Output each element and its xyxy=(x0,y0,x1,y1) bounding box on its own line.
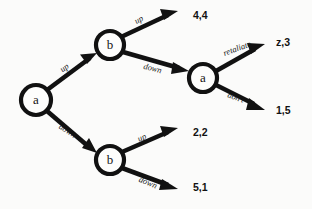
node-lower-b[interactable]: b xyxy=(96,146,124,174)
payoff-label-5-1: 5,1 xyxy=(193,181,208,193)
edge-upper-b-down-arrowhead xyxy=(171,62,189,74)
edge-lower-b-up xyxy=(122,126,178,152)
edge-label-lower-b-down: down xyxy=(138,174,159,190)
node-group: a b b a xyxy=(21,31,217,174)
node-root-a-label: a xyxy=(33,92,39,107)
edge-upper-b-up xyxy=(121,9,178,37)
payoff-label-4-4: 4,4 xyxy=(193,9,208,21)
node-upper-b[interactable]: b xyxy=(96,31,124,59)
node-second-a[interactable]: a xyxy=(189,64,217,92)
game-tree-svg: up down up down retaliate don't up down … xyxy=(0,0,312,209)
edge-root-up-line xyxy=(47,58,90,90)
edge-lower-b-down-arrowhead xyxy=(159,179,178,190)
game-tree-diagram: up down up down retaliate don't up down … xyxy=(0,0,312,209)
node-lower-b-label: b xyxy=(107,152,114,167)
node-root-a[interactable]: a xyxy=(21,85,51,115)
edge-upper-b-up-line xyxy=(121,15,168,37)
payoff-label-1-5: 1,5 xyxy=(276,104,291,116)
payoff-label-2-2: 2,2 xyxy=(193,126,208,138)
payoff-label-z-3: z,3 xyxy=(276,36,290,48)
edge-second-a-dont-arrowhead xyxy=(246,98,265,110)
edge-label-second-a-dont: don't xyxy=(226,90,246,105)
node-second-a-label: a xyxy=(200,70,206,85)
edge-label-group: up down up down retaliate don't up down xyxy=(57,13,252,191)
edge-root-up xyxy=(47,53,97,90)
node-upper-b-label: b xyxy=(107,37,114,52)
edge-label-upper-b-up: up xyxy=(133,13,146,26)
